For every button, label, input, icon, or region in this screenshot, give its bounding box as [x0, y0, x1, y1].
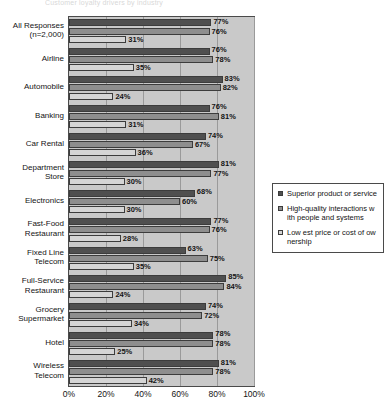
bar-1-9	[69, 283, 224, 290]
legend-label: Superior product or service	[287, 189, 377, 198]
y-axis-label-10: Grocery Supermarket	[0, 305, 64, 324]
y-axis-label-7: Fast-Food Restaurant	[0, 219, 64, 238]
bar-2-6	[69, 206, 125, 213]
bar-0-7	[69, 218, 211, 225]
bar-value-label: 30%	[127, 206, 142, 213]
y-axis-label-8: Fixed Line Telecom	[0, 248, 64, 267]
bar-0-9	[69, 275, 226, 282]
y-axis-label-12: Wireless Telecom	[0, 361, 64, 380]
bar-value-label: 75%	[210, 255, 225, 262]
bar-value-label: 81%	[221, 160, 236, 167]
bar-value-label: 72%	[204, 312, 219, 319]
bar-1-7	[69, 226, 210, 233]
bar-value-label: 83%	[225, 75, 240, 82]
bar-2-5	[69, 178, 125, 185]
legend-item-2[interactable]: Low est price or cost of ow nership	[277, 228, 380, 246]
bar-2-2	[69, 93, 113, 100]
legend-item-1[interactable]: High-quality interactions w ith people a…	[277, 204, 380, 222]
bar-value-label: 81%	[221, 113, 236, 120]
bar-value-label: 84%	[226, 283, 241, 290]
legend-label: Low est price or cost of ow nership	[287, 228, 380, 246]
bar-value-label: 36%	[138, 149, 153, 156]
gridline	[180, 17, 181, 386]
bar-value-label: 77%	[213, 217, 228, 224]
bar-value-label: 31%	[128, 121, 143, 128]
bar-value-label: 31%	[128, 36, 143, 43]
bar-value-label: 77%	[213, 170, 228, 177]
chart-legend: Superior product or serviceHigh-quality …	[272, 183, 384, 253]
bar-0-8	[69, 247, 186, 254]
bar-value-label: 67%	[195, 141, 210, 148]
bar-value-label: 60%	[182, 198, 197, 205]
bar-1-10	[69, 312, 202, 319]
y-axis-label-5: Department Store	[0, 163, 64, 182]
bar-2-4	[69, 149, 136, 156]
bar-1-11	[69, 340, 213, 347]
y-axis-label-2: Automobile	[0, 82, 64, 92]
bar-2-10	[69, 320, 132, 327]
legend-swatch-icon	[278, 206, 283, 211]
legend-label: High-quality interactions w ith people a…	[287, 204, 380, 222]
bar-value-label: 35%	[136, 64, 151, 71]
bar-0-4	[69, 133, 206, 140]
bar-2-8	[69, 263, 134, 270]
x-axis-tick-3: 60%	[171, 389, 188, 399]
bar-value-label: 76%	[212, 226, 227, 233]
bar-value-label: 81%	[221, 359, 236, 366]
bar-value-label: 76%	[212, 103, 227, 110]
bar-1-4	[69, 141, 193, 148]
bar-1-12	[69, 368, 213, 375]
bar-0-12	[69, 360, 219, 367]
bar-2-0	[69, 36, 126, 43]
bar-0-2	[69, 76, 223, 83]
bar-value-label: 74%	[208, 302, 223, 309]
y-axis-label-9: Full-Service Restaurant	[0, 276, 64, 295]
bar-2-9	[69, 291, 113, 298]
legend-item-0[interactable]: Superior product or service	[277, 189, 380, 198]
bar-2-3	[69, 121, 126, 128]
x-axis-tick-2: 40%	[134, 389, 151, 399]
y-axis-label-3: Banking	[0, 111, 64, 121]
bar-value-label: 76%	[212, 28, 227, 35]
chart-container: Customer loyalty drivers by industry 77%…	[0, 0, 390, 415]
bar-value-label: 28%	[123, 235, 138, 242]
legend-swatch-icon	[278, 230, 283, 235]
bar-value-label: 74%	[208, 132, 223, 139]
legend-swatch-icon	[278, 191, 283, 196]
bar-2-11	[69, 348, 115, 355]
bar-value-label: 78%	[215, 368, 230, 375]
bar-value-label: 35%	[136, 263, 151, 270]
bar-value-label: 34%	[134, 320, 149, 327]
bar-0-1	[69, 48, 210, 55]
bar-value-label: 85%	[228, 273, 243, 280]
bar-0-3	[69, 105, 210, 112]
gridline	[254, 17, 255, 386]
bar-2-12	[69, 377, 147, 384]
x-axis-tick-0: 0%	[63, 389, 75, 399]
y-axis-label-0: All Responses (n=2,000)	[0, 21, 64, 40]
y-axis-label-6: Electronics	[0, 196, 64, 206]
bar-value-label: 24%	[115, 291, 130, 298]
bar-value-label: 30%	[127, 178, 142, 185]
bar-1-5	[69, 170, 211, 177]
bar-0-0	[69, 19, 211, 26]
x-axis-ticks: 0%20%40%60%80%100%	[68, 389, 255, 403]
bar-1-3	[69, 113, 219, 120]
bar-value-label: 25%	[117, 348, 132, 355]
bar-2-1	[69, 64, 134, 71]
bar-value-label: 78%	[215, 56, 230, 63]
bar-0-6	[69, 190, 195, 197]
bar-1-2	[69, 84, 221, 91]
x-axis-tick-1: 20%	[97, 389, 114, 399]
bar-value-label: 77%	[213, 18, 228, 25]
y-axis-label-11: Hotel	[0, 338, 64, 348]
bar-value-label: 78%	[215, 330, 230, 337]
x-axis-tick-5: 100%	[243, 389, 265, 399]
y-axis-label-4: Car Rental	[0, 139, 64, 149]
x-axis-tick-4: 80%	[208, 389, 225, 399]
bar-0-10	[69, 303, 206, 310]
bar-value-label: 63%	[188, 245, 203, 252]
bar-0-11	[69, 332, 213, 339]
plot-area: 77%76%31%76%78%35%83%82%24%76%81%31%74%6…	[68, 16, 255, 387]
bar-value-label: 82%	[223, 84, 238, 91]
